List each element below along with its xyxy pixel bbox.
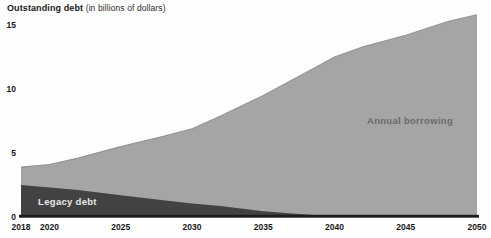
x-tick-label-2018: 2018	[12, 222, 31, 232]
y-tick-label-5: 5	[11, 148, 16, 158]
x-tick-label-2020: 2020	[40, 222, 59, 232]
series-label-annual-borrowing: Annual borrowing	[367, 115, 453, 126]
x-tick-label-2025: 2025	[111, 222, 130, 232]
stacked-area-chart: 05101520182020202520302035204020452050Le…	[0, 0, 491, 238]
y-tick-label-15: 15	[7, 20, 17, 30]
y-tick-label-10: 10	[7, 84, 17, 94]
x-tick-label-2030: 2030	[183, 222, 202, 232]
x-tick-label-2045: 2045	[396, 222, 415, 232]
y-tick-label-0: 0	[11, 212, 16, 222]
x-axis-line	[19, 215, 479, 218]
x-tick-label-2040: 2040	[325, 222, 344, 232]
outstanding-debt-chart-page: Outstanding debt (in billions of dollars…	[0, 0, 491, 238]
x-tick-label-2035: 2035	[254, 222, 273, 232]
series-label-legacy-debt: Legacy debt	[38, 196, 97, 207]
x-tick-label-2050: 2050	[468, 222, 487, 232]
